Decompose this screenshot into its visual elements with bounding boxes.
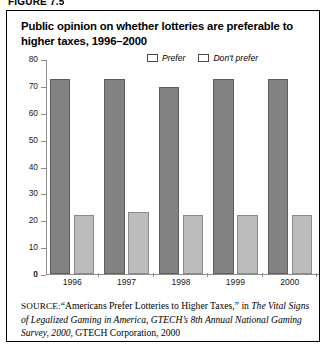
y-tick-label: 0 [33,269,38,279]
y-tick-50: 50 [15,141,46,142]
source-connector: in [239,300,251,311]
bar-dont-prefer-1997 [128,212,149,274]
figure-container: FIGURE 7.5 Public opinion on whether lot… [0,0,326,347]
bar-prefer-1996 [50,79,71,274]
bar-group-1997 [104,51,149,274]
y-tick-mark [41,194,46,195]
bar-prefer-2000 [268,79,289,274]
source-quote: “Americans Prefer Lotteries to Higher Ta… [61,300,239,311]
y-tick-30: 30 [15,194,46,195]
source-note: SOURCE:“Americans Prefer Lotteries to Hi… [21,299,311,340]
bar-dont-prefer-1998 [183,215,204,274]
y-tick-label: 10 [29,242,38,252]
bar-dont-prefer-2000 [292,215,313,274]
y-tick-mark [41,87,46,88]
x-axis-label-2000: 2000 [262,277,319,287]
y-tick-mark [41,60,46,61]
y-tick-80: 80 [15,60,46,61]
y-tick-70: 70 [15,87,46,88]
bar-prefer-1997 [104,79,125,274]
x-axis-label-1998: 1998 [153,277,210,287]
y-tick-mark [41,114,46,115]
chart-title: Public opinion on whether lotteries are … [21,19,309,48]
x-axis-label-1999: 1999 [207,277,264,287]
y-tick-label: 50 [29,135,38,145]
y-tick-label: 30 [29,188,38,198]
y-tick-mark [41,275,46,276]
y-tick-mark [41,221,46,222]
y-tick-label: 80 [29,54,38,64]
bar-group-2000 [268,51,313,274]
source-tail: GTECH Corporation, 2000 [73,327,180,338]
y-tick-mark [41,141,46,142]
bar-series-container [47,51,319,275]
y-tick-label: 60 [29,108,38,118]
figure-label: FIGURE 7.5 [8,0,64,7]
y-tick-label: 20 [29,215,38,225]
y-tick-mark [41,168,46,169]
y-tick-10: 10 [15,248,46,249]
bar-group-1996 [50,51,95,274]
x-axis-labels: 19961997199819992000 [47,277,319,291]
y-tick-0: 0 [15,275,46,276]
x-axis-label-1997: 1997 [98,277,155,287]
bar-group-1998 [159,51,204,274]
figure-frame: Public opinion on whether lotteries are … [6,10,320,342]
plot-area: 01020304050607080 19961997199819992000 [15,51,313,291]
source-prefix: SOURCE: [21,301,61,311]
x-axis-label-1996: 1996 [44,277,101,287]
bar-dont-prefer-1999 [237,215,258,274]
bar-prefer-1998 [159,87,180,274]
y-tick-60: 60 [15,114,46,115]
y-tick-label: 40 [29,162,38,172]
y-tick-20: 20 [15,221,46,222]
bar-group-1999 [213,51,258,274]
bar-prefer-1999 [213,79,234,274]
bar-dont-prefer-1996 [74,215,95,274]
y-tick-40: 40 [15,168,46,169]
y-tick-mark [41,248,46,249]
y-tick-label: 70 [29,81,38,91]
